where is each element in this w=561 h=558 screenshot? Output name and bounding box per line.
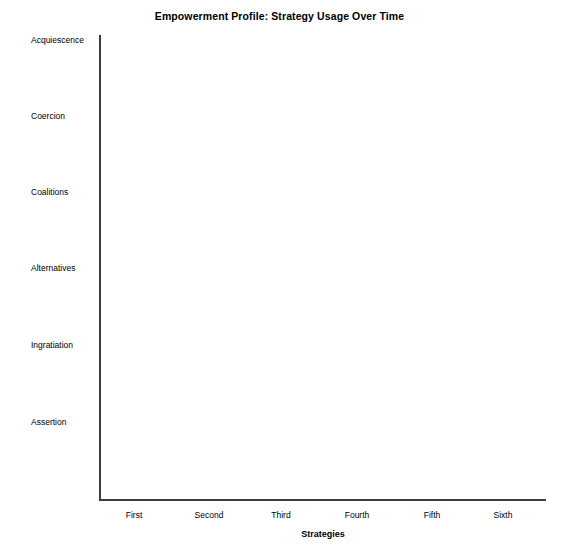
x-axis-title: Strategies [301, 529, 345, 539]
x-axis-tick-label: Fourth [345, 510, 370, 520]
x-axis-tick-labels: First Second Third Fourth Fifth Sixth [0, 0, 561, 558]
x-axis-tick-label: First [126, 510, 143, 520]
chart-container: Empowerment Profile: Strategy Usage Over… [0, 0, 561, 558]
x-axis-tick-label: Second [195, 510, 224, 520]
x-axis-tick-label: Sixth [494, 510, 513, 520]
x-axis-tick-label: Fifth [424, 510, 441, 520]
x-axis-tick-label: Third [271, 510, 290, 520]
